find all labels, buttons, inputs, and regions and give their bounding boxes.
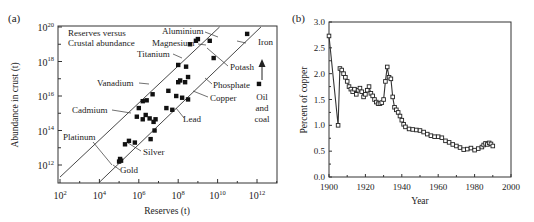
data-marker bbox=[407, 127, 411, 131]
reference-diagonal-line bbox=[99, 27, 261, 182]
data-point bbox=[152, 128, 156, 132]
data-point bbox=[148, 137, 152, 141]
data-point bbox=[150, 92, 154, 96]
data-marker bbox=[365, 88, 369, 92]
x-tick-label: 108 bbox=[172, 189, 185, 202]
leader-line bbox=[205, 32, 218, 37]
data-marker bbox=[367, 85, 371, 89]
x-tick-label: 106 bbox=[132, 189, 146, 202]
data-marker bbox=[360, 90, 364, 94]
y-tick-label: 0.0 bbox=[314, 172, 326, 182]
data-marker bbox=[336, 124, 340, 128]
label-aluminium: Aluminium bbox=[162, 26, 204, 36]
label-gold: Gold bbox=[120, 165, 139, 175]
leader-line bbox=[205, 78, 212, 84]
label-titanium: Titanium bbox=[137, 49, 170, 59]
data-point bbox=[135, 115, 139, 119]
x-tick-label: 1940 bbox=[393, 182, 412, 192]
leader-line bbox=[198, 44, 206, 45]
data-marker bbox=[345, 80, 349, 84]
label-vanadium: Vanadium bbox=[97, 78, 134, 88]
y-tick-label: 0.5 bbox=[314, 146, 326, 156]
y-tick-label: 2.0 bbox=[314, 69, 326, 79]
data-point bbox=[184, 64, 188, 68]
x-tick-label: 1980 bbox=[466, 182, 485, 192]
arrow-up-icon bbox=[259, 59, 266, 67]
data-point bbox=[186, 97, 190, 101]
leader-line bbox=[237, 41, 246, 43]
x-tick-label: 1920 bbox=[356, 182, 375, 192]
x-tick-label: 1010 bbox=[209, 189, 226, 202]
data-point bbox=[127, 139, 131, 143]
data-marker bbox=[391, 95, 395, 99]
data-point bbox=[144, 98, 148, 102]
data-marker bbox=[398, 114, 402, 118]
leader-line bbox=[139, 83, 149, 84]
data-marker bbox=[491, 144, 495, 148]
x-tick-label: 102 bbox=[53, 189, 66, 202]
data-point bbox=[153, 117, 157, 121]
data-marker bbox=[451, 143, 455, 147]
data-marker bbox=[364, 93, 368, 97]
data-marker bbox=[455, 144, 459, 148]
data-point bbox=[176, 63, 180, 67]
leader-line bbox=[207, 48, 228, 66]
data-marker bbox=[384, 80, 388, 84]
data-point bbox=[211, 56, 215, 60]
y-tick-label: 1020 bbox=[38, 21, 55, 34]
y-axis-label-a: Abundance in crust (t) bbox=[10, 62, 21, 147]
data-marker bbox=[440, 136, 444, 140]
x-tick-label: 2000 bbox=[502, 182, 521, 192]
data-marker bbox=[327, 34, 331, 38]
data-point bbox=[174, 94, 178, 98]
y-tick-label: 1012 bbox=[38, 159, 55, 172]
x-tick-label: 1012 bbox=[249, 189, 266, 202]
data-marker bbox=[476, 147, 480, 151]
plot-frame-b bbox=[329, 22, 511, 177]
leader-line bbox=[173, 54, 182, 58]
data-point bbox=[137, 106, 141, 110]
annotation-line-2: Crustal abundance bbox=[68, 38, 135, 48]
data-marker bbox=[358, 86, 362, 90]
y-tick-label: 2.5 bbox=[314, 43, 326, 53]
label-cadmium: Cadmium bbox=[72, 105, 108, 115]
figure: (a)1021041061081010101210121014101610181… bbox=[0, 0, 534, 222]
data-point bbox=[143, 113, 147, 117]
data-point bbox=[180, 96, 184, 100]
annotation-line-1: Reserves versus bbox=[68, 28, 126, 38]
data-point bbox=[245, 32, 249, 36]
data-marker bbox=[422, 130, 426, 134]
data-marker bbox=[344, 75, 348, 79]
data-marker bbox=[462, 148, 466, 152]
data-point bbox=[178, 78, 182, 82]
data-marker bbox=[382, 98, 386, 102]
data-marker bbox=[444, 139, 448, 143]
label-coal: coal bbox=[255, 114, 270, 124]
data-point bbox=[183, 80, 187, 84]
data-marker bbox=[371, 94, 375, 98]
y-axis-label-b: Percent of copper bbox=[299, 66, 309, 134]
data-marker bbox=[429, 134, 433, 138]
data-point bbox=[147, 116, 151, 120]
data-point bbox=[119, 158, 123, 162]
panel-label-a: (a) bbox=[8, 12, 21, 25]
leader-line bbox=[93, 142, 112, 165]
leader-line bbox=[112, 110, 131, 113]
label-oil: Oil bbox=[256, 92, 268, 102]
data-marker bbox=[353, 87, 357, 91]
data-marker bbox=[355, 93, 359, 97]
leader-line bbox=[193, 91, 208, 97]
data-point bbox=[133, 140, 137, 144]
data-marker bbox=[340, 68, 344, 72]
y-tick-label: 1018 bbox=[38, 55, 55, 68]
label-silver: Silver bbox=[143, 147, 165, 157]
y-tick-label: 1.0 bbox=[314, 120, 326, 130]
y-tick-label: 1016 bbox=[38, 90, 55, 103]
data-point bbox=[196, 37, 200, 41]
y-tick-label: 1.5 bbox=[314, 95, 326, 105]
data-marker bbox=[411, 128, 415, 132]
label-platinum: Platinum bbox=[63, 132, 96, 142]
data-point bbox=[186, 75, 190, 79]
label-copper: Copper bbox=[210, 93, 237, 103]
label-phosphate: Phosphate bbox=[213, 80, 250, 90]
